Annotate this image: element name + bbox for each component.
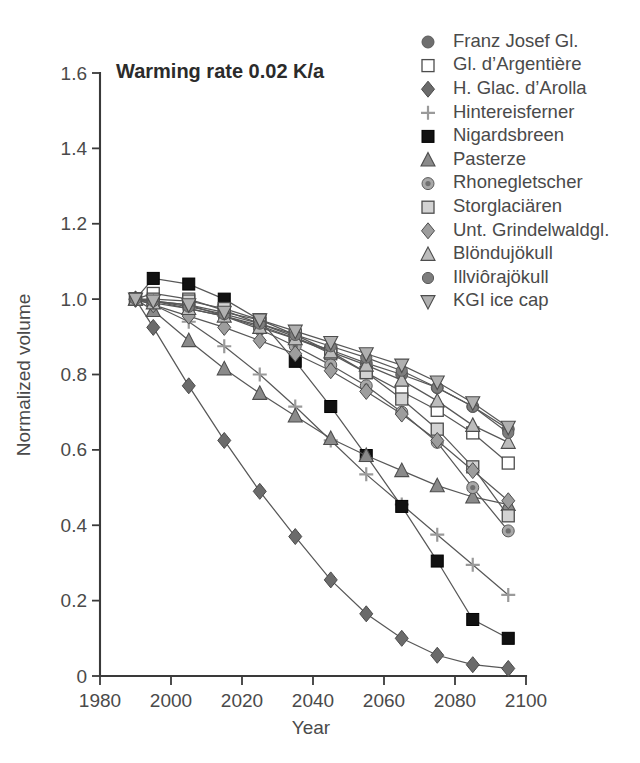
y-tick-label: 0.2 <box>61 590 87 611</box>
legend-item-7[interactable]: Storglaciären <box>422 195 562 216</box>
legend-item-2[interactable]: H. Glac. d’Arolla <box>422 77 588 98</box>
x-tick-label: 2060 <box>363 690 405 711</box>
data-point-triangle-up-light <box>430 393 444 407</box>
y-axis-label: Normalized volume <box>13 294 34 457</box>
data-point-square-filled <box>502 632 514 644</box>
data-point-triangle-down <box>421 296 435 310</box>
normalized-volume-line-chart: 00.20.40.60.81.01.21.41.6198020002020204… <box>0 0 640 763</box>
legend-label: Franz Josef Gl. <box>453 30 578 51</box>
data-point-square-filled <box>396 500 408 512</box>
data-point-circle-midgray <box>422 272 433 283</box>
data-point-triangle-up-gray <box>253 386 267 400</box>
series-7 <box>130 293 515 522</box>
data-point-triangle-up-gray <box>182 333 196 347</box>
series-4 <box>130 272 515 644</box>
legend-label: Blöndujökull <box>453 242 553 263</box>
y-tick-label: 1.4 <box>61 138 88 159</box>
data-point-square-open <box>502 457 514 469</box>
x-tick-label: 2000 <box>150 690 192 711</box>
data-point-plus <box>421 106 435 120</box>
y-tick-label: 0.8 <box>61 364 87 385</box>
data-point-diamond-filled <box>466 657 479 673</box>
x-tick-label: 1980 <box>79 690 121 711</box>
legend-item-1[interactable]: Gl. d’Argentière <box>422 53 582 74</box>
data-point-square-lightgray <box>502 510 514 522</box>
y-tick-label: 0.4 <box>61 515 88 536</box>
legend-label: Hintereisferner <box>453 101 574 122</box>
data-point-diamond-filled <box>395 630 408 646</box>
legend-label: Unt. Grindelwaldgl. <box>453 219 609 240</box>
legend-label: KGI ice cap <box>453 289 549 310</box>
legend-item-8[interactable]: Unt. Grindelwaldgl. <box>422 219 610 240</box>
legend-label: Gl. d’Argentière <box>453 53 582 74</box>
series-line <box>136 278 509 638</box>
data-point-square-filled <box>183 278 195 290</box>
series-line <box>136 299 509 516</box>
data-point-circle-small <box>467 482 479 494</box>
data-point-square-filled <box>325 401 337 413</box>
data-point-square-filled <box>147 272 159 284</box>
data-point-diamond-gray <box>253 333 266 349</box>
legend-item-6[interactable]: Rhonegletscher <box>422 171 583 192</box>
legend-label: Rhonegletscher <box>453 171 583 192</box>
x-tick-label: 2100 <box>505 690 547 711</box>
chart-legend: Franz Josef Gl.Gl. d’ArgentièreH. Glac. … <box>421 30 609 311</box>
y-tick-label: 1.6 <box>61 63 87 84</box>
data-point-circle-small <box>502 525 514 537</box>
data-point-square-lightgray <box>422 201 434 213</box>
data-point-diamond-filled <box>422 81 435 97</box>
plot-title: Warming rate 0.02 K/a <box>116 60 325 82</box>
data-point-square-filled <box>467 613 479 625</box>
data-point-plus <box>217 339 231 353</box>
legend-item-5[interactable]: Pasterze <box>421 148 526 169</box>
x-tick-label: 2020 <box>221 690 263 711</box>
series-line <box>136 299 509 504</box>
legend-label: Illviôrajökull <box>453 266 549 287</box>
legend-item-3[interactable]: Hintereisferner <box>421 101 574 122</box>
data-point-triangle-up-light <box>421 247 435 261</box>
data-point-circle-filled <box>422 36 434 48</box>
series-line <box>136 299 509 501</box>
y-tick-label: 1.2 <box>61 213 87 234</box>
y-tick-label: 0 <box>76 666 87 687</box>
data-point-triangle-up-gray <box>395 463 409 477</box>
series-line <box>136 299 509 668</box>
series-5 <box>129 292 516 511</box>
data-series-layer <box>129 272 516 676</box>
data-point-square-filled <box>422 130 434 142</box>
legend-item-10[interactable]: Illviôrajökull <box>422 266 548 287</box>
series-8 <box>129 291 515 509</box>
y-tick-label: 1.0 <box>61 289 87 310</box>
legend-label: Pasterze <box>453 148 526 169</box>
data-point-square-open <box>422 60 434 72</box>
data-point-diamond-gray <box>422 223 435 239</box>
series-line <box>136 299 509 531</box>
legend-item-4[interactable]: Nigardsbreen <box>422 124 564 145</box>
x-tick-label: 2040 <box>292 690 334 711</box>
data-point-triangle-up-gray <box>324 431 338 445</box>
legend-label: Storglaciären <box>453 195 562 216</box>
data-point-diamond-filled <box>431 647 444 663</box>
series-6 <box>130 293 515 537</box>
legend-item-11[interactable]: KGI ice cap <box>421 289 549 310</box>
data-point-square-lightgray <box>396 393 408 405</box>
data-point-triangle-up-gray <box>421 153 435 167</box>
data-point-circle-small <box>422 178 434 190</box>
data-point-triangle-up-gray <box>217 361 231 375</box>
data-point-square-filled <box>431 555 443 567</box>
y-tick-label: 0.6 <box>61 439 87 460</box>
data-point-triangle-up-light <box>466 418 480 432</box>
legend-item-9[interactable]: Blöndujökull <box>421 242 553 263</box>
data-point-diamond-filled <box>147 319 160 335</box>
data-point-diamond-filled <box>502 660 515 676</box>
data-point-diamond-filled <box>360 606 373 622</box>
data-point-diamond-filled <box>182 378 195 394</box>
legend-label: Nigardsbreen <box>453 124 564 145</box>
legend-item-0[interactable]: Franz Josef Gl. <box>422 30 578 51</box>
chart-figure: 00.20.40.60.81.01.21.41.6198020002020204… <box>0 0 640 763</box>
x-tick-label: 2080 <box>434 690 476 711</box>
x-axis-label: Year <box>292 717 331 738</box>
legend-label: H. Glac. d’Arolla <box>453 77 587 98</box>
data-point-triangle-up-gray <box>430 478 444 492</box>
